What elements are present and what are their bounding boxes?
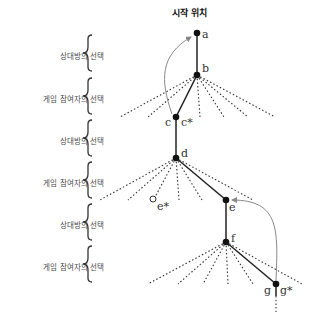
node-label-e-star: e* <box>157 200 170 213</box>
node-g <box>273 281 280 288</box>
node-label-g-star: g* <box>280 284 293 297</box>
brace-icon <box>83 78 92 114</box>
brace-icon <box>83 120 92 156</box>
node-label-b: b <box>202 62 209 75</box>
node-f <box>223 239 230 246</box>
chosen-path <box>176 33 276 296</box>
brace-icon <box>83 162 92 198</box>
brace-icon <box>83 35 92 71</box>
node-label-c-star: c* <box>181 116 193 129</box>
arrow-c-to-a <box>165 37 191 114</box>
node-label-e: e <box>229 201 236 214</box>
node-label-d: d <box>181 147 188 160</box>
node-d <box>173 155 180 162</box>
game-tree-diagram: a b c c* d e* e f g g* <box>0 0 316 321</box>
node-label-c: c <box>165 116 171 129</box>
brace-icon <box>83 204 92 240</box>
node-label-a: a <box>202 28 209 41</box>
fan-d <box>100 158 253 200</box>
brace-icons <box>83 35 92 282</box>
node-a <box>194 30 201 37</box>
brace-icon <box>83 246 92 282</box>
fan-b <box>120 75 275 117</box>
fan-f <box>148 242 302 284</box>
node-b <box>194 72 201 79</box>
node-label-g: g <box>264 284 271 297</box>
arrow-g-to-e <box>232 200 277 281</box>
node-c <box>173 114 180 121</box>
node-e-star <box>150 196 156 202</box>
node-label-f: f <box>231 232 236 245</box>
